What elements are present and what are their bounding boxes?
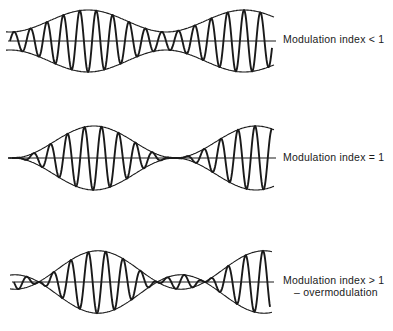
label-text: Modulation index > 1 bbox=[283, 274, 384, 286]
label-modulation-over: Modulation index > 1 – overmodulation bbox=[283, 274, 384, 298]
label-subtext: – overmodulation bbox=[283, 286, 384, 298]
